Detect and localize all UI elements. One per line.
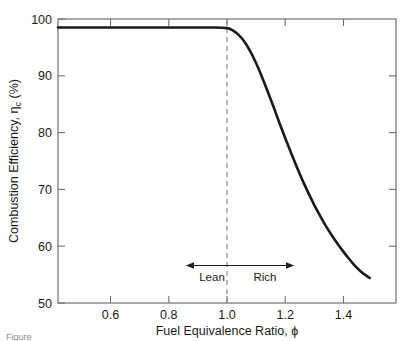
rich-label: Rich xyxy=(253,271,276,283)
plot-frame xyxy=(58,19,396,303)
y-axis-title-main: Combustion Efficiency, η xyxy=(7,106,21,242)
combustion-efficiency-chart: 100 90 80 70 60 50 0.6 0.8 1.0 1.2 1.4 L… xyxy=(0,0,408,341)
x-tick-labels: 0.6 0.8 1.0 1.2 1.4 xyxy=(102,308,352,322)
y-tick-label-80: 80 xyxy=(38,126,52,140)
figure-container: 100 90 80 70 60 50 0.6 0.8 1.0 1.2 1.4 L… xyxy=(0,0,408,341)
x-tick-label-1-2: 1.2 xyxy=(277,308,294,322)
x-tick-label-0-6: 0.6 xyxy=(102,308,119,322)
x-tick-label-1-0: 1.0 xyxy=(218,308,235,322)
y-tick-label-60: 60 xyxy=(38,240,52,254)
x-tick-label-1-4: 1.4 xyxy=(335,308,352,322)
figure-caption: Figure xyxy=(6,332,32,341)
y-tick-label-90: 90 xyxy=(38,69,52,83)
y-axis-title-tail: (%) xyxy=(7,79,21,102)
y-axis-title-group: Combustion Efficiency, ηc (%) xyxy=(7,79,23,243)
y-axis-title: Combustion Efficiency, ηc (%) xyxy=(7,79,23,243)
x-tick-label-0-8: 0.8 xyxy=(160,308,177,322)
y-tick-label-70: 70 xyxy=(38,183,52,197)
lean-label: Lean xyxy=(199,271,225,283)
x-axis-title-symbol: ϕ xyxy=(291,324,298,338)
y-tick-label-100: 100 xyxy=(31,13,52,27)
x-axis-title-main: Fuel Equivalence Ratio, xyxy=(156,324,292,338)
plot-border xyxy=(58,19,396,303)
y-tick-label-50: 50 xyxy=(38,297,52,311)
x-axis-title: Fuel Equivalence Ratio, ϕ xyxy=(156,324,299,338)
y-tick-labels: 100 90 80 70 60 50 xyxy=(31,13,52,311)
